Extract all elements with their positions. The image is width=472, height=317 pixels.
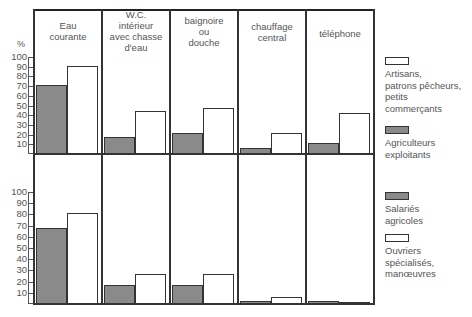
bar-top-gray [36,85,67,154]
bar-bottom-white [339,302,370,304]
bar-bottom-white [67,213,98,304]
y-tick [28,57,33,58]
column-label-eau-courante: Eau courante [35,20,101,42]
legend-swatch-artisans [385,57,409,65]
y-tick [28,259,33,260]
bar-top-white [271,133,302,154]
y-tick-label: 70 [16,221,27,231]
bar-bottom-white [135,274,166,304]
y-tick-label: 50 [16,101,27,111]
column-divider [305,9,307,305]
column-divider [33,9,35,305]
y-tick [28,144,33,145]
column-label-baignoire: baignoire ou douche [171,15,237,48]
y-tick-label: 100 [11,52,27,62]
column-divider [101,9,103,305]
y-tick [28,106,33,107]
y-tick [28,96,33,97]
y-tick-label: 80 [16,209,27,219]
y-tick [28,214,33,215]
legend-swatch-salaries [385,192,409,200]
bar-bottom-gray [104,285,135,304]
y-tick [28,115,33,116]
column-label-chauffage: chauffage central [239,21,305,43]
bar-top-white [135,111,166,154]
legend-label-salaries: Salariés agricoles [385,203,423,226]
y-tick-label: 30 [16,265,27,275]
legend-label-ouvriers: Ouvriers spécialisés, manœuvres [385,245,436,280]
bar-top-gray [104,137,135,154]
column-divider [169,9,171,305]
y-tick [28,76,33,77]
bar-bottom-gray [240,301,271,304]
y-tick [28,125,33,126]
legend-label-artisans: Artisans, patrons pêcheurs, petits comme… [385,68,461,114]
y-tick [28,248,33,249]
bar-bottom-gray [36,228,67,304]
y-tick [28,282,33,283]
y-tick-label: 70 [16,81,27,91]
y-tick-label: 60 [16,232,27,242]
column-label-telephone: téléphone [307,28,373,39]
legend-label-agriculteurs: Agriculteurs exploitants [385,137,435,160]
bar-top-gray [308,143,339,154]
y-tick-label: 60 [16,91,27,101]
bar-bottom-gray [308,301,339,304]
y-tick-label: 40 [16,254,27,264]
y-tick [28,86,33,87]
legend-swatch-agriculteurs [385,126,409,134]
bar-bottom-white [203,274,234,304]
column-label-wc: W.C. intérieur avec chasse d'eau [103,9,169,53]
y-tick-label: 20 [16,130,27,140]
y-tick-label: 80 [16,71,27,81]
bar-top-white [67,66,98,154]
y-tick-label: 100 [11,187,27,197]
y-axis-unit: % [17,39,25,49]
y-tick-label: 90 [16,62,27,72]
y-tick [28,203,33,204]
bar-top-gray [172,133,203,154]
y-tick [28,226,33,227]
y-tick [28,270,33,271]
bar-bottom-white [271,297,302,304]
column-divider [237,9,239,305]
bar-bottom-gray [172,285,203,304]
y-tick-label: 90 [16,198,27,208]
y-tick-label: 10 [16,288,27,298]
y-tick-label: 40 [16,110,27,120]
bar-top-white [339,113,370,154]
y-tick-label: 20 [16,277,27,287]
y-tick [28,192,33,193]
y-tick-label: 50 [16,243,27,253]
y-tick [28,237,33,238]
y-tick [28,135,33,136]
bar-top-white [203,108,234,154]
y-tick [28,67,33,68]
y-tick [28,293,33,294]
bar-top-gray [240,148,271,154]
column-divider [373,9,375,305]
y-tick-label: 30 [16,120,27,130]
legend-swatch-ouvriers [385,234,409,242]
y-tick-label: 10 [16,139,27,149]
